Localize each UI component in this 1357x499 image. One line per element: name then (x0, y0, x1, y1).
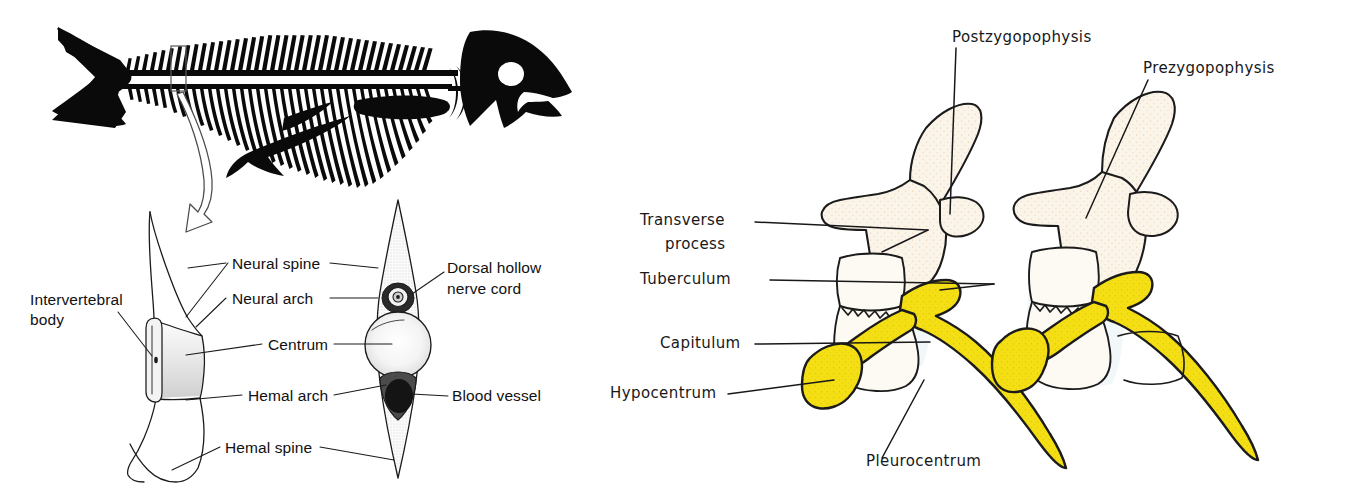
hypocentrum-1 (802, 344, 862, 409)
figure-root: Intervertebral body Neural spine Neural … (0, 0, 1357, 499)
right-panel-rhachitomous-sketch: Postzygopophysis Prezygopophysis Transve… (610, 0, 1357, 499)
label-dorsal-hollow-nerve-cord-line2: nerve cord (447, 280, 521, 297)
lateral-vertebra-view (128, 212, 214, 482)
left-panel-labels: Intervertebral body Neural spine Neural … (30, 255, 542, 456)
label-dorsal-hollow-nerve-cord: Dorsal hollow (447, 259, 542, 276)
label-blood-vessel: Blood vessel (452, 387, 541, 404)
blood-vessel (385, 379, 413, 413)
anterior-vertebra-view (365, 200, 431, 478)
left-panel-teleost-vertebra: Intervertebral body Neural spine Neural … (0, 0, 610, 499)
label-tuberculum: Tuberculum (639, 270, 731, 288)
centrum-circle (365, 312, 431, 378)
fish-eye (498, 62, 524, 86)
label-neural-arch: Neural arch (232, 290, 313, 307)
label-hemal-spine: Hemal spine (225, 439, 312, 456)
label-prezygopophysis: Prezygopophysis (1143, 59, 1275, 77)
label-neural-spine: Neural spine (232, 255, 320, 272)
label-centrum: Centrum (268, 336, 328, 353)
label-pleurocentrum: Pleurocentrum (866, 452, 981, 470)
right-panel-svg: Postzygopophysis Prezygopophysis Transve… (610, 0, 1357, 499)
label-intervertebral-body-line2: body (30, 311, 64, 328)
intervertebral-body-shape (146, 318, 162, 402)
fish-skeleton-silhouette (52, 27, 572, 188)
label-postzygopophysis: Postzygopophysis (952, 28, 1092, 46)
label-hypocentrum: Hypocentrum (610, 384, 716, 402)
left-panel-svg: Intervertebral body Neural spine Neural … (0, 0, 610, 499)
label-transverse-process-line2: process (665, 235, 725, 253)
label-intervertebral-body: Intervertebral (30, 291, 123, 308)
label-capitulum: Capitulum (660, 334, 741, 352)
label-hemal-arch: Hemal arch (248, 387, 328, 404)
label-transverse-process: Transverse (639, 211, 725, 229)
